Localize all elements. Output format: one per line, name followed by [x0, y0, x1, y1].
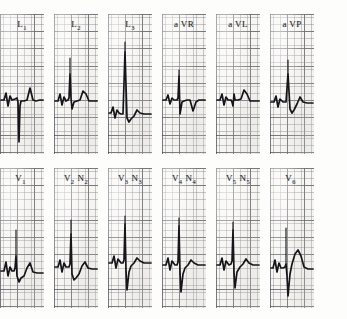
lead-label-l2: L2: [54, 19, 98, 31]
ecg-trace-v5: [216, 168, 260, 308]
ecg-trace-v1: [0, 168, 44, 308]
lead-label-avp: a VP: [270, 19, 314, 31]
ecg-trace-v4: [162, 168, 206, 308]
ecg-trace-l2: [54, 14, 98, 154]
ecg-waveform-path: [109, 224, 151, 290]
ecg-trace-l1: [0, 14, 44, 154]
lead-panel-v2: V2N2: [54, 168, 98, 308]
lead-panel-avl: a VL: [216, 14, 260, 154]
lead-label-l1: L1: [0, 19, 44, 31]
lead-label-v5: V5N5: [216, 173, 260, 185]
ecg-waveform-path: [1, 88, 43, 142]
lead-panel-v1: V1: [0, 168, 44, 308]
ecg-trace-v2: [54, 168, 98, 308]
lead-label-v6: V6: [270, 173, 314, 185]
lead-label-l3: L3: [108, 19, 152, 31]
ecg-waveform-path: [55, 74, 97, 109]
lead-panel-v4: V4N4: [162, 168, 206, 308]
ecg-trace-avr: [162, 14, 206, 154]
lead-label-v4: V4N4: [162, 173, 206, 185]
ecg-waveform-path: [217, 90, 259, 106]
ecg-trace-avp: [270, 14, 314, 154]
lead-panel-l2: L2: [54, 14, 98, 154]
ecg-waveform-path: [55, 234, 97, 280]
ecg-trace-v3: [108, 168, 152, 308]
lead-panel-avr: a VR: [162, 14, 206, 154]
lead-label-v3: V3N3: [108, 173, 152, 185]
lead-label-v1: V1: [0, 173, 44, 185]
lead-label-avr: a VR: [162, 19, 206, 31]
ecg-waveform-path: [163, 226, 205, 292]
lead-panel-v5: V5N5: [216, 168, 260, 308]
ecg-waveform-path: [271, 250, 313, 296]
lead-panel-l3: L3: [108, 14, 152, 154]
lead-panel-avp: a VP: [270, 14, 314, 154]
lead-panel-l1: L1: [0, 14, 44, 154]
lead-panel-v6: V6: [270, 168, 314, 308]
ecg-waveform-path: [163, 76, 205, 114]
ecg-row-limb-leads: L1 L2 L3 a VR: [0, 14, 347, 156]
ecg-waveform-path: [217, 230, 259, 288]
ecg-trace-v6: [270, 168, 314, 308]
ecg-trace-avl: [216, 14, 260, 154]
ecg-waveform-path: [109, 52, 151, 122]
ecg-waveform-path: [1, 256, 43, 282]
ecg-waveform-path: [271, 74, 313, 113]
lead-label-avl: a VL: [216, 19, 260, 31]
lead-panel-v3: V3N3: [108, 168, 152, 308]
ecg-trace-l3: [108, 14, 152, 154]
ecg-sheet: L1 L2 L3 a VR: [0, 0, 347, 319]
ecg-row-precordial-leads: V1 V2N2 V3N3 V4N4: [0, 168, 347, 310]
lead-label-v2: V2N2: [54, 173, 98, 185]
